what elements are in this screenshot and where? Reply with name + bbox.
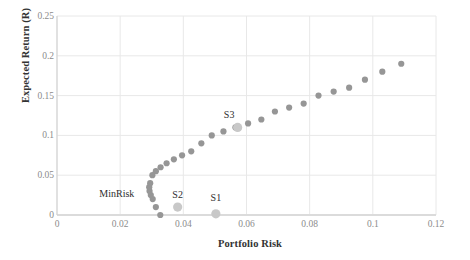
x-tick-label: 0.12 [428, 219, 445, 229]
x-axis-title: Portfolio Risk [55, 238, 445, 249]
point-annotation-s1: S1 [211, 191, 222, 202]
y-tick-label: 0.15 [10, 91, 54, 101]
data-point [220, 128, 226, 134]
highlighted-point-s2 [173, 202, 182, 211]
x-tick-label: 0.1 [367, 219, 379, 229]
data-point [362, 77, 368, 83]
data-point [157, 164, 163, 170]
y-tick-label: 0.05 [10, 170, 54, 180]
data-point [163, 160, 169, 166]
data-point [398, 61, 404, 67]
data-point [188, 148, 194, 154]
point-annotation-minrisk: MinRisk [99, 187, 134, 198]
y-tick-label: 0.25 [10, 11, 54, 21]
highlighted-point-s3 [233, 123, 242, 132]
x-tick-label: 0.06 [238, 219, 255, 229]
data-point [272, 108, 278, 114]
data-point [245, 120, 251, 126]
data-point [286, 104, 292, 110]
y-axis-title: Expected Return (R) [20, 0, 31, 136]
data-point [147, 180, 153, 186]
x-tick-label: 0 [55, 219, 60, 229]
data-point [346, 85, 352, 91]
data-point [258, 116, 264, 122]
y-tick-label: 0.1 [10, 130, 54, 140]
data-point [315, 93, 321, 99]
data-point [157, 212, 163, 218]
data-point [171, 156, 177, 162]
point-annotation-s2: S2 [172, 188, 183, 199]
plot-area [0, 0, 470, 260]
y-tick-label: 0 [10, 210, 54, 220]
y-tick-label: 0.2 [10, 51, 54, 61]
data-point [301, 100, 307, 106]
x-tick-label: 0.02 [112, 219, 129, 229]
data-point [379, 69, 385, 75]
data-point [153, 204, 159, 210]
efficient-frontier-chart: 00.050.10.150.20.25 Expected Return (R) … [0, 0, 470, 260]
data-point [153, 168, 159, 174]
point-annotation-s3: S3 [224, 108, 235, 119]
data-point [179, 152, 185, 158]
data-point [198, 140, 204, 146]
data-point [209, 132, 215, 138]
data-point [331, 89, 337, 95]
x-tick-label: 0.08 [301, 219, 318, 229]
highlighted-point-s1 [211, 209, 220, 218]
x-tick-label: 0.04 [175, 219, 192, 229]
